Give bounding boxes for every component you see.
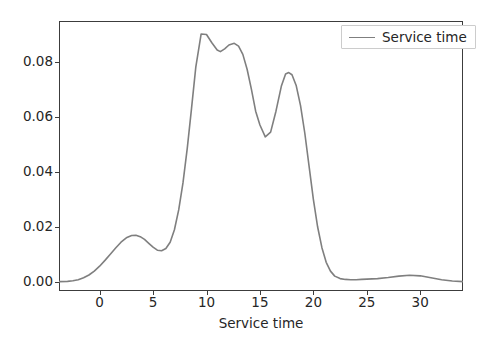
y-tick-mark	[55, 172, 59, 173]
x-tick-mark	[420, 291, 421, 295]
x-axis-title: Service time	[59, 316, 463, 331]
y-tick-mark	[55, 62, 59, 63]
legend-box: Service time	[341, 25, 476, 49]
x-tick-label: 25	[358, 296, 375, 310]
x-tick-label: 5	[149, 296, 158, 310]
x-tick-mark	[260, 291, 261, 295]
x-tick-mark	[207, 291, 208, 295]
legend-label: Service time	[382, 30, 467, 44]
y-tick-mark	[55, 282, 59, 283]
x-tick-label: 15	[251, 296, 268, 310]
x-tick-label: 20	[305, 296, 322, 310]
x-tick-mark	[367, 291, 368, 295]
x-tick-mark	[153, 291, 154, 295]
x-tick-label: 10	[198, 296, 215, 310]
y-tick-mark	[55, 117, 59, 118]
x-axis-ticks: 051015202530	[0, 0, 485, 344]
y-tick-mark	[55, 227, 59, 228]
figure-canvas: 0.000.020.040.060.08 051015202530 Servic…	[0, 0, 485, 344]
x-tick-mark	[100, 291, 101, 295]
x-tick-label: 0	[95, 296, 104, 310]
legend-line-sample-icon	[349, 37, 375, 38]
x-tick-mark	[313, 291, 314, 295]
x-tick-label: 30	[412, 296, 429, 310]
